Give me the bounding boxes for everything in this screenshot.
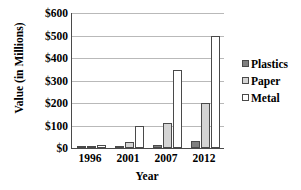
legend-label: Metal: [251, 92, 280, 104]
bar-metal-2012[interactable]: [211, 36, 220, 148]
legend-swatch-icon: [242, 94, 249, 101]
x-axis-tick-label: 1996: [71, 151, 109, 165]
y-axis-tick-label: $500: [20, 31, 68, 41]
legend-label: Plastics: [251, 58, 288, 70]
y-axis-tick-label: $200: [20, 98, 68, 108]
bar-paper-2012[interactable]: [201, 103, 210, 148]
bar-plastics-2012[interactable]: [191, 141, 200, 148]
bar-metal-2007[interactable]: [173, 70, 182, 148]
y-axis-tick-label: $0: [20, 143, 68, 153]
bar-group: [72, 13, 110, 148]
legend-label: Paper: [251, 75, 280, 87]
x-axis-tick-label: 2001: [109, 151, 147, 165]
plot-area: [71, 13, 224, 149]
y-axis-tick-label: $100: [20, 121, 68, 131]
x-axis-tick-label: 2007: [147, 151, 185, 165]
bars-layer: [72, 13, 224, 148]
legend-item-paper[interactable]: Paper: [242, 72, 300, 89]
legend-swatch-icon: [242, 60, 249, 67]
bar-metal-2001[interactable]: [135, 126, 144, 149]
x-axis-tick-label: 2012: [185, 151, 223, 165]
legend: PlasticsPaperMetal: [242, 55, 300, 106]
bar-plastics-2001[interactable]: [115, 146, 124, 148]
bar-plastics-1996[interactable]: [77, 146, 86, 148]
bar-paper-2001[interactable]: [125, 142, 134, 148]
x-axis-title: Year: [71, 170, 223, 182]
bar-group: [110, 13, 148, 148]
y-axis-tick-label: $300: [20, 76, 68, 86]
bar-metal-1996[interactable]: [97, 145, 106, 148]
legend-item-plastics[interactable]: Plastics: [242, 55, 300, 72]
bar-paper-2007[interactable]: [163, 123, 172, 148]
y-axis-tick-label: $400: [20, 53, 68, 63]
x-axis-tick-labels: 1996200120072012: [71, 151, 223, 165]
legend-item-metal[interactable]: Metal: [242, 89, 300, 106]
legend-swatch-icon: [242, 77, 249, 84]
y-axis-tick-label: $600: [20, 8, 68, 18]
bar-plastics-2007[interactable]: [153, 145, 162, 148]
bar-group: [148, 13, 186, 148]
bar-paper-1996[interactable]: [87, 146, 96, 148]
y-axis-tick-labels: $600$500$400$300$200$100$0: [20, 8, 70, 148]
bar-group: [186, 13, 224, 148]
bar-chart: Value (in Millions) $600$500$400$300$200…: [0, 0, 301, 190]
